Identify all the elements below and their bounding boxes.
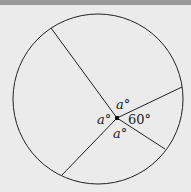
label-top: a° xyxy=(116,97,130,112)
center-point xyxy=(115,116,119,120)
label-bottom: a° xyxy=(113,126,127,141)
circle-diagram: a° a° a° 60° xyxy=(0,0,191,192)
label-left: a° xyxy=(97,112,111,127)
segment-upper-left xyxy=(51,28,117,118)
label-right-60: 60° xyxy=(128,112,151,127)
